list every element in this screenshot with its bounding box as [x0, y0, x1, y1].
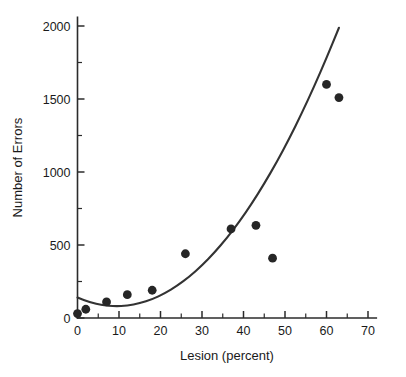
x-tick-label: 10 [112, 324, 126, 338]
data-point [81, 305, 90, 314]
data-point [123, 290, 132, 299]
y-tick-label: 0 [64, 312, 71, 326]
data-point [252, 221, 261, 230]
data-point [73, 309, 82, 318]
x-tick-label: 20 [154, 324, 168, 338]
y-axis-title: Number of Errors [10, 117, 25, 217]
x-axis-title: Lesion (percent) [180, 348, 274, 363]
scatter-plot: 0500100015002000 010203040506070 Lesion … [0, 0, 406, 377]
data-point [148, 286, 157, 295]
data-point [268, 254, 277, 263]
x-tick-label: 70 [361, 324, 375, 338]
y-axis-major-ticks [78, 26, 85, 318]
figure-container: 0500100015002000 010203040506070 Lesion … [0, 0, 406, 377]
x-tick-label: 40 [237, 324, 251, 338]
y-tick-label: 2000 [43, 20, 71, 34]
y-tick-label: 500 [50, 239, 71, 253]
y-axis-tick-labels: 0500100015002000 [43, 20, 71, 326]
data-point [181, 249, 190, 258]
x-tick-label: 50 [278, 324, 292, 338]
data-point [322, 80, 331, 89]
data-point-series [73, 80, 343, 318]
fitted-curve [78, 28, 339, 306]
data-point [102, 298, 111, 307]
x-tick-label: 30 [195, 324, 209, 338]
data-point [227, 225, 236, 234]
y-tick-label: 1000 [43, 166, 71, 180]
data-point [335, 93, 344, 102]
x-tick-label: 0 [74, 324, 81, 338]
y-tick-label: 1500 [43, 93, 71, 107]
x-tick-label: 60 [320, 324, 334, 338]
x-axis-tick-labels: 010203040506070 [74, 324, 375, 338]
